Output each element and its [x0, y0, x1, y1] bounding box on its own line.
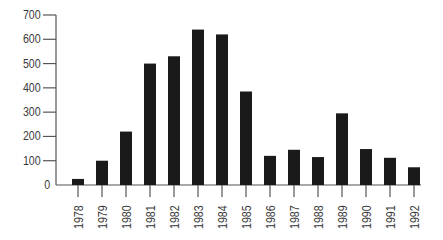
x-tick-label: 1978	[72, 205, 85, 229]
chart-plot-area	[0, 0, 443, 240]
bar-chart: 0100200300400500600700 19781979198019811…	[0, 0, 443, 240]
x-tick-label: 1990	[360, 205, 373, 229]
bar-1987	[288, 150, 300, 185]
x-tick-label: 1981	[144, 205, 157, 229]
y-tick-label: 0	[44, 178, 50, 191]
bar-1978	[72, 179, 84, 185]
y-tick-label: 600	[23, 32, 41, 45]
y-tick-label: 400	[23, 81, 41, 94]
bar-1990	[360, 149, 372, 185]
bar-1988	[312, 157, 324, 185]
y-tick-label: 700	[23, 8, 41, 21]
bar-1981	[144, 64, 156, 185]
bar-1979	[96, 161, 108, 185]
bar-1980	[120, 132, 132, 185]
bar-1984	[216, 34, 228, 185]
x-tick-label: 1991	[384, 205, 397, 229]
y-tick-label: 100	[23, 154, 41, 167]
x-tick-label: 1989	[336, 205, 349, 229]
y-tick-label: 500	[23, 57, 41, 70]
bar-1991	[384, 158, 396, 185]
bar-1992	[408, 167, 420, 185]
x-tick-label: 1986	[264, 205, 277, 229]
x-tick-label: 1980	[120, 205, 133, 229]
x-tick-label: 1984	[216, 205, 229, 229]
y-tick-label: 200	[23, 129, 41, 142]
x-tick-label: 1988	[312, 205, 325, 229]
bar-1982	[168, 56, 180, 185]
x-tick-label: 1982	[168, 205, 181, 229]
x-tick-label: 1979	[96, 205, 109, 229]
y-tick-label: 300	[23, 105, 41, 118]
x-tick-label: 1983	[192, 205, 205, 229]
bar-1989	[336, 113, 348, 185]
x-tick-label: 1992	[408, 205, 421, 229]
x-tick-label: 1985	[240, 205, 253, 229]
x-tick-label: 1987	[288, 205, 301, 229]
bar-1985	[240, 92, 252, 186]
bar-1983	[192, 30, 204, 185]
bar-1986	[264, 156, 276, 185]
